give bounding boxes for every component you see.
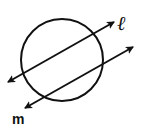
label-line-m: m [12,111,24,127]
line-l [8,22,114,82]
line-m [25,47,133,108]
diagram-canvas: ℓ m [0,0,141,130]
circle [21,19,103,101]
label-line-l: ℓ [117,11,126,35]
